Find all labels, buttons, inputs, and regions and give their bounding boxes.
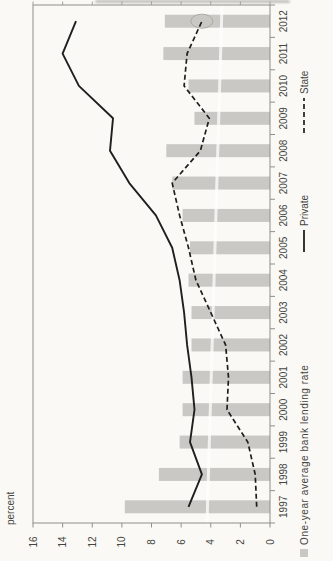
year-label-1999: 1999 [278,431,289,454]
percent-tick-label: 2 [235,539,246,545]
year-label-2004: 2004 [278,269,289,292]
percent-tick-label: 8 [146,539,157,545]
legend-state-label: State [299,70,310,94]
percent-tick-label: 14 [57,536,68,548]
bar-2004 [189,274,270,287]
bar-2005 [190,241,270,254]
year-label-1998: 1998 [278,463,289,486]
bar-1997 [125,500,270,513]
percent-tick-label: 12 [87,536,98,548]
legend-bar-label: One-year average bank lending rate [299,364,310,545]
year-label-2000: 2000 [278,398,289,421]
percent-tick-label: 6 [176,539,187,545]
year-label-2003: 2003 [278,301,289,324]
bar-2011 [163,47,270,60]
bar-2006 [183,209,270,222]
percent-tick-label: 10 [116,536,127,548]
bar-2001 [183,371,270,384]
percent-tick-label: 0 [265,539,276,545]
bar-1998 [159,468,270,481]
legend-private-label: Private [299,194,310,226]
year-label-2001: 2001 [278,366,289,389]
legend: One-year average bank lending rate Priva… [299,70,310,557]
year-label-2012: 2012 [278,10,289,33]
bar-2003 [191,306,270,319]
legend-bar-swatch [300,549,308,557]
figure-stage: 0246810121416199719981999200020012002200… [0,0,333,561]
rotated-chart: 0246810121416199719981999200020012002200… [0,0,333,561]
bars-group [125,15,270,514]
year-label-1997: 1997 [278,495,289,518]
year-label-2008: 2008 [278,139,289,162]
bar-2007 [172,177,270,190]
year-label-2006: 2006 [278,204,289,227]
bar-2002 [191,338,270,351]
bar-2009 [194,112,270,125]
year-label-2002: 2002 [278,333,289,356]
year-label-2009: 2009 [278,107,289,130]
year-label-2007: 2007 [278,172,289,195]
chart-svg: 0246810121416199719981999200020012002200… [0,0,333,561]
percent-tick-label: 16 [28,536,39,548]
bar-2010 [189,79,270,92]
bar-2012 [165,15,270,28]
year-label-2010: 2010 [278,74,289,97]
private-line [63,21,202,507]
percent-axis-title: percent [5,491,16,525]
percent-tick-label: 4 [205,539,216,545]
bar-1999 [180,436,270,449]
year-label-2011: 2011 [278,42,289,64]
year-label-2005: 2005 [278,236,289,259]
